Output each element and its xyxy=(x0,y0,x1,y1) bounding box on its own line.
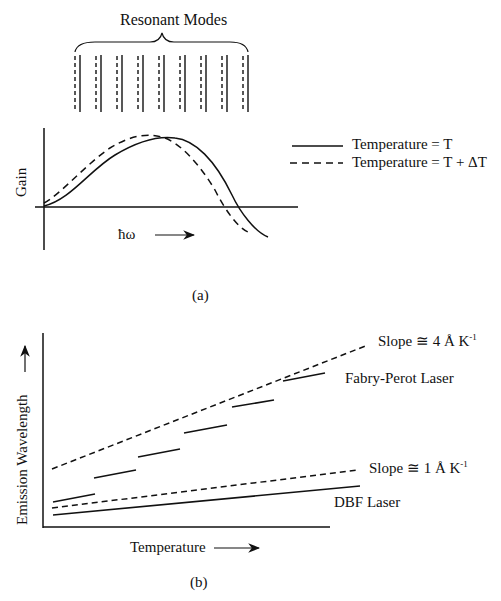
panel-a-graphics xyxy=(0,0,501,601)
dbf-slope-label: Slope ≅ 1 Å K-1 xyxy=(369,460,468,476)
fp-slope-label: Slope ≅ 4 Å K-1 xyxy=(378,333,477,349)
dbf-slope-text: Slope ≅ 1 Å K xyxy=(369,460,460,476)
gain-curve-t-plus-dt xyxy=(44,135,248,232)
emission-wavelength-axis-label: Emission Wavelength xyxy=(15,394,30,525)
fp-slope-text: Slope ≅ 4 Å K xyxy=(378,333,469,349)
fp-laser-segments xyxy=(53,373,325,502)
resonant-modes-title: Resonant Modes xyxy=(120,12,227,28)
fp-laser-label: Fabry-Perot Laser xyxy=(345,371,454,386)
dbf-laser-label: DBF Laser xyxy=(334,495,400,510)
gain-curve-t xyxy=(44,138,268,237)
temperature-axis-label: Temperature xyxy=(130,540,206,555)
hw-axis-label: ħω xyxy=(118,227,135,242)
fp-slope-exponent: -1 xyxy=(469,332,477,342)
resonant-mode-lines xyxy=(75,55,248,112)
gain-axis-label: Gain xyxy=(14,168,29,197)
fp-slope-line xyxy=(52,345,368,469)
resonant-modes-brace xyxy=(75,33,248,52)
dbf-slope-exponent: -1 xyxy=(460,459,468,469)
dbf-laser-line xyxy=(53,486,360,515)
legend-label-t: Temperature = T xyxy=(352,137,452,152)
panel-b-caption: (b) xyxy=(190,575,208,590)
panel-a-caption: (a) xyxy=(192,288,209,303)
dbf-slope-line xyxy=(52,470,358,508)
legend-label-t-plus-dt: Temperature = T + ΔT xyxy=(352,155,487,170)
